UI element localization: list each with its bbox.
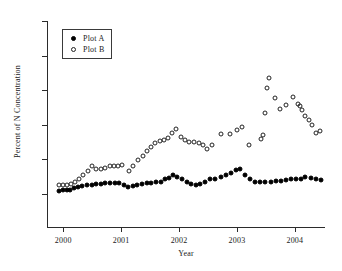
data-point <box>318 178 323 183</box>
legend-label-plot-b: Plot B <box>83 45 104 54</box>
data-point <box>212 177 217 182</box>
y-axis-title: Percent of N Concentration <box>13 32 22 192</box>
filled-circle-icon <box>68 36 79 41</box>
open-circle-icon <box>68 47 79 52</box>
legend-label-plot-a: Plot A <box>83 34 104 43</box>
data-point <box>228 132 233 137</box>
x-tick <box>179 227 180 232</box>
x-tick <box>295 227 296 232</box>
legend-item-plot-a: Plot A <box>68 33 104 44</box>
chart-legend: Plot A Plot B <box>62 29 112 59</box>
data-point <box>131 163 136 168</box>
data-point <box>174 126 179 131</box>
x-tick-label: 2001 <box>101 236 141 245</box>
data-point <box>205 146 210 151</box>
data-point <box>170 131 175 136</box>
x-tick <box>121 227 122 232</box>
data-point <box>218 175 223 180</box>
data-point <box>261 133 266 138</box>
data-point <box>135 158 140 163</box>
data-point <box>273 95 278 100</box>
x-tick <box>63 227 64 232</box>
data-point <box>263 111 268 116</box>
data-point <box>126 169 131 174</box>
data-point <box>149 145 154 150</box>
data-point <box>310 123 315 128</box>
data-point <box>210 142 215 147</box>
data-point <box>266 76 271 81</box>
x-tick-label: 2004 <box>275 236 315 245</box>
y-tick <box>42 194 47 195</box>
data-point <box>85 169 90 174</box>
data-point <box>166 135 171 140</box>
data-point <box>247 143 252 148</box>
data-point <box>218 131 223 136</box>
scatter-chart: 01020304050 20002001200220032004 Plot A … <box>0 0 342 271</box>
data-point <box>277 107 282 112</box>
data-point <box>265 86 270 91</box>
data-point <box>291 95 296 100</box>
x-tick-label: 2003 <box>217 236 257 245</box>
data-point <box>300 107 305 112</box>
x-tick <box>237 227 238 232</box>
data-point <box>284 103 289 108</box>
x-axis-title: Year <box>47 249 325 258</box>
data-point <box>238 167 243 172</box>
data-point <box>240 124 245 129</box>
data-point <box>140 153 145 158</box>
data-point <box>234 127 239 132</box>
x-axis-line <box>47 227 325 228</box>
x-tick-label: 2002 <box>159 236 199 245</box>
data-point <box>144 149 149 154</box>
data-point <box>119 162 124 167</box>
data-point <box>318 129 323 134</box>
x-tick-label: 2000 <box>43 236 83 245</box>
legend-item-plot-b: Plot B <box>68 44 104 55</box>
